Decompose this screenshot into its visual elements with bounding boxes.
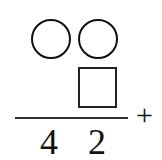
sum-line <box>15 117 128 119</box>
plus-sign: + <box>136 100 153 130</box>
circle-blank-tens <box>31 19 71 59</box>
square-blank-ones <box>78 67 117 108</box>
circle-blank-ones <box>78 19 118 59</box>
sum-digit-tens: 4 <box>40 124 58 160</box>
sum-digit-ones: 2 <box>88 124 106 160</box>
